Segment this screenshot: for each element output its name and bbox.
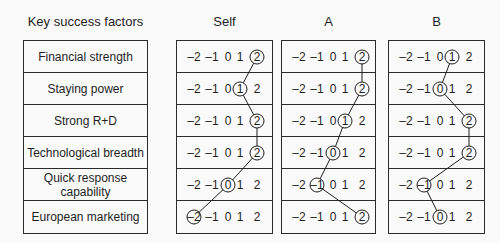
profile-svg: [177, 41, 272, 233]
scale-table-a: –2–1012–2–1012–2–1012–2–1012–2–1012–2–10…: [281, 40, 376, 234]
scale-number: 1: [342, 115, 349, 127]
scale-number: –1: [417, 179, 430, 191]
factor-row: Quick response capability: [24, 169, 147, 201]
scale-number: –1: [205, 51, 218, 63]
scale-number: –1: [205, 115, 218, 127]
scale-number: –1: [205, 83, 218, 95]
scale-number: 0: [437, 51, 444, 63]
scale-number: 2: [466, 51, 473, 63]
profile-line: [424, 153, 469, 185]
factor-row: Staying power: [24, 73, 147, 105]
scale-number: –1: [417, 83, 430, 95]
scale-number: –2: [292, 211, 305, 223]
scale-number: 1: [237, 51, 244, 63]
scale-number: 0: [330, 147, 337, 159]
scale-number: 1: [449, 179, 456, 191]
scale-number: –2: [292, 51, 305, 63]
scale-number: 2: [466, 115, 473, 127]
scale-number: –2: [292, 147, 305, 159]
scale-number: 1: [237, 179, 244, 191]
scale-number: 1: [342, 179, 349, 191]
scale-number: 2: [466, 147, 473, 159]
factor-row: Technological breadth: [24, 137, 147, 169]
scale-number: –2: [187, 179, 200, 191]
scale-number: –2: [292, 179, 305, 191]
scale-number: –1: [310, 147, 323, 159]
scale-number: –1: [417, 147, 430, 159]
scale-number: 1: [342, 147, 349, 159]
factors-header: Key success factors: [23, 14, 148, 30]
scale-number: –2: [399, 83, 412, 95]
factor-label: Technological breadth: [27, 146, 144, 160]
scale-number: 1: [342, 211, 349, 223]
scale-number: 0: [330, 83, 337, 95]
scale-number: –2: [399, 51, 412, 63]
scale-number: 2: [359, 179, 366, 191]
scale-number: 1: [237, 83, 244, 95]
scale-number: 0: [330, 211, 337, 223]
scale-number: 1: [342, 51, 349, 63]
column-header-b: B: [388, 14, 485, 30]
scale-number: 0: [437, 115, 444, 127]
scale-number: –2: [187, 51, 200, 63]
scale-number: 0: [225, 115, 232, 127]
factor-label: Strong R+D: [54, 114, 117, 128]
scale-number: 2: [254, 51, 261, 63]
scale-number: 1: [449, 83, 456, 95]
profile-line: [317, 185, 362, 217]
scale-number: 1: [237, 115, 244, 127]
scale-number: 0: [225, 179, 232, 191]
scale-table-self: –2–1012–2–1012–2–1012–2–1012–2–1012–2–10…: [176, 40, 273, 234]
column-header-self: Self: [176, 14, 273, 30]
scale-number: 2: [466, 179, 473, 191]
scale-number: 1: [449, 147, 456, 159]
factor-label: European marketing: [31, 210, 139, 224]
scale-number: 1: [449, 51, 456, 63]
scale-number: 1: [449, 211, 456, 223]
factor-row: Strong R+D: [24, 105, 147, 137]
scale-number: –1: [310, 179, 323, 191]
scale-number: 2: [359, 211, 366, 223]
scale-table-b: –2–1012–2–1012–2–1012–2–1012–2–1012–2–10…: [388, 40, 485, 234]
scale-number: –2: [187, 147, 200, 159]
scale-number: 0: [437, 83, 444, 95]
scale-number: 2: [466, 83, 473, 95]
profile-svg: [389, 41, 484, 233]
factor-label: Quick response capability: [26, 171, 145, 199]
scale-number: –1: [417, 51, 430, 63]
factor-label: Financial strength: [38, 50, 133, 64]
scale-number: 0: [330, 51, 337, 63]
scale-number: –2: [292, 83, 305, 95]
scale-number: –1: [417, 211, 430, 223]
factor-label: Staying power: [47, 82, 123, 96]
factor-row: European marketing: [24, 201, 147, 233]
scale-number: –1: [205, 147, 218, 159]
scale-number: 2: [359, 83, 366, 95]
scale-number: 0: [437, 147, 444, 159]
scale-number: –2: [399, 147, 412, 159]
scale-number: –2: [292, 115, 305, 127]
scale-number: –1: [310, 51, 323, 63]
scale-number: 0: [225, 83, 232, 95]
scale-number: 2: [359, 147, 366, 159]
scale-number: –2: [399, 115, 412, 127]
scale-number: –2: [399, 211, 412, 223]
scale-number: 2: [254, 115, 261, 127]
scale-number: 2: [254, 83, 261, 95]
scale-number: –1: [310, 211, 323, 223]
column-header-a: A: [281, 14, 376, 30]
profile-svg: [282, 41, 375, 233]
competitive-profile-diagram: Key success factors Self A B Financial s…: [0, 0, 500, 243]
scale-number: 0: [330, 179, 337, 191]
scale-number: –1: [417, 115, 430, 127]
factor-row: Financial strength: [24, 41, 147, 73]
scale-number: –1: [310, 83, 323, 95]
scale-number: 1: [342, 83, 349, 95]
scale-number: 2: [254, 179, 261, 191]
scale-number: 1: [237, 147, 244, 159]
scale-number: 0: [437, 179, 444, 191]
factors-table: Financial strengthStaying powerStrong R+…: [23, 40, 148, 234]
scale-number: –2: [399, 179, 412, 191]
scale-number: 0: [225, 147, 232, 159]
scale-number: 0: [330, 115, 337, 127]
